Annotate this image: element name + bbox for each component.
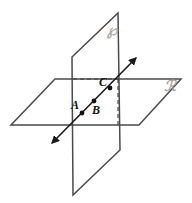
point-a-label: A	[70, 98, 79, 112]
point-c-dot-icon	[108, 86, 113, 91]
point-b-label: B	[91, 103, 100, 117]
geometry-figure-canvas: ℘ ℛ A B C	[0, 0, 192, 203]
point-c-label: C	[99, 75, 108, 89]
point-a-dot-icon	[80, 111, 85, 116]
geometry-diagram: ℘ ℛ A B C	[0, 0, 192, 203]
plane-r-label: ℛ	[164, 78, 177, 94]
